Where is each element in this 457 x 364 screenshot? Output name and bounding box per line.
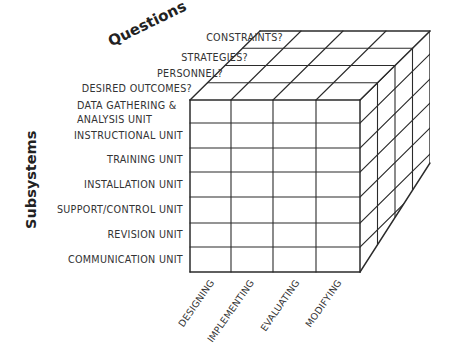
subsystem-label-revision: REVISION UNIT	[107, 230, 183, 240]
subsystems-axis-title: Subsystems	[24, 131, 39, 229]
question-label-strategies: STRATEGIES?	[181, 53, 248, 63]
subsystem-label-training: TRAINING UNIT	[107, 155, 183, 165]
question-label-personnel: PERSONNEL?	[157, 69, 223, 79]
subsystem-label-installation: INSTALLATION UNIT	[84, 180, 183, 190]
cube-right-face	[360, 21, 440, 272]
subsystem-label-data-gathering-line2: ANALYSIS UNIT	[77, 115, 152, 125]
subsystem-label-instructional: INSTRUCTIONAL UNIT	[74, 131, 183, 141]
cube-front-face	[190, 100, 360, 272]
question-label-desired-outcomes: DESIRED OUTCOMES?	[82, 84, 192, 94]
question-label-constraints: CONSTRAINTS?	[206, 33, 283, 43]
subsystem-label-communication: COMMUNICATION UNIT	[68, 255, 183, 265]
subsystem-label-support-control: SUPPORT/CONTROL UNIT	[57, 205, 183, 215]
subsystem-label-data-gathering-line1: DATA GATHERING &	[77, 101, 177, 111]
